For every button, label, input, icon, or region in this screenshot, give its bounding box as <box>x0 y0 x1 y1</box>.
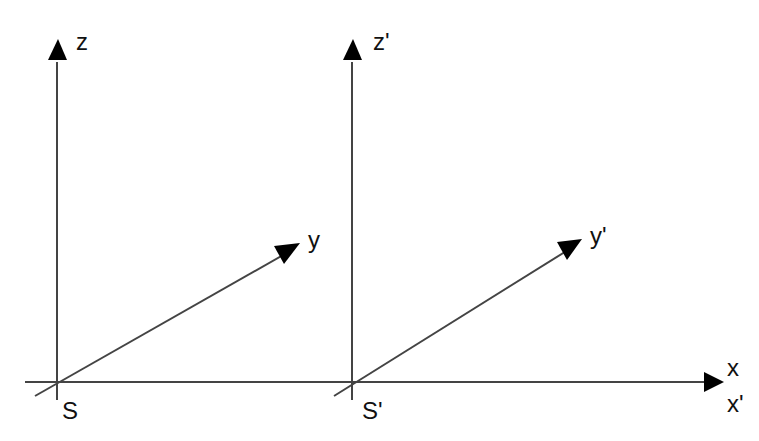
x-axis-arrowhead-icon <box>704 372 724 392</box>
frame-s-prime <box>334 39 582 400</box>
y-prime-axis-label: y' <box>590 224 607 248</box>
reference-frames-diagram <box>0 0 759 441</box>
x-prime-axis-label: x' <box>727 392 744 416</box>
origin-s-label: S <box>62 399 78 423</box>
y-axis-label: y <box>308 228 320 252</box>
frame-s <box>35 39 300 400</box>
z-axis-label: z <box>76 30 88 54</box>
x-axis <box>25 372 724 392</box>
y-prime-axis <box>334 250 568 396</box>
z-prime-axis-label: z' <box>373 30 390 54</box>
origin-s-prime-label: S' <box>362 399 383 423</box>
x-axis-label: x <box>727 356 739 380</box>
z-prime-axis-arrowhead-icon <box>343 39 362 60</box>
y-prime-axis-arrowhead-icon <box>557 239 582 260</box>
y-axis <box>35 254 285 396</box>
z-axis-arrowhead-icon <box>48 39 67 60</box>
y-axis-arrowhead-icon <box>274 243 300 264</box>
